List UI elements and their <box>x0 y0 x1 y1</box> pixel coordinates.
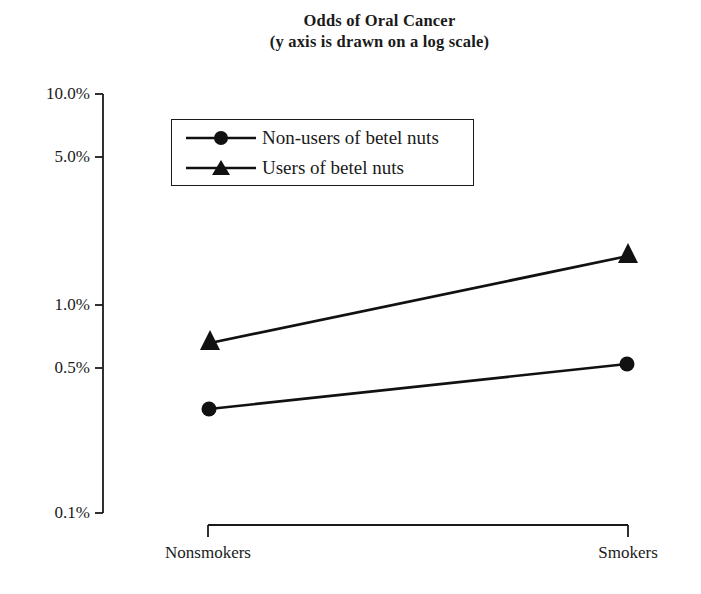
data-point-users-nonsmokers <box>200 330 220 350</box>
x-tick-label-nonsmokers: Nonsmokers <box>165 544 251 561</box>
series-non-users <box>202 357 635 417</box>
series-users <box>200 243 638 350</box>
y-tick-label-1: 1.0% <box>55 296 90 313</box>
x-axis <box>208 525 628 537</box>
legend-label-non-users: Non-users of betel nuts <box>262 127 439 149</box>
legend-marker-circle-icon <box>184 126 258 150</box>
legend-label-users: Users of betel nuts <box>262 157 404 179</box>
y-tick-label-0-5: 0.5% <box>55 359 90 376</box>
plot-area <box>0 0 701 594</box>
data-point-non-users-nonsmokers <box>202 402 217 417</box>
y-tick-label-0-1: 0.1% <box>55 504 90 521</box>
chart-figure: Odds of Oral Cancer (y axis is drawn on … <box>0 0 701 594</box>
data-point-users-smokers <box>618 243 638 263</box>
series-non-users-line <box>209 364 627 409</box>
series-users-line <box>210 256 628 343</box>
legend-entry-non-users: Non-users of betel nuts <box>172 125 473 151</box>
y-tick-label-5: 5.0% <box>55 148 90 165</box>
y-tick-label-10: 10.0% <box>46 85 90 102</box>
data-point-non-users-smokers <box>620 357 635 372</box>
legend-entry-users: Users of betel nuts <box>172 155 473 181</box>
legend-marker-triangle-icon <box>184 156 258 180</box>
x-tick-label-smokers: Smokers <box>598 544 658 561</box>
chart-legend: Non-users of betel nuts Users of betel n… <box>171 119 474 186</box>
y-axis <box>95 94 103 513</box>
